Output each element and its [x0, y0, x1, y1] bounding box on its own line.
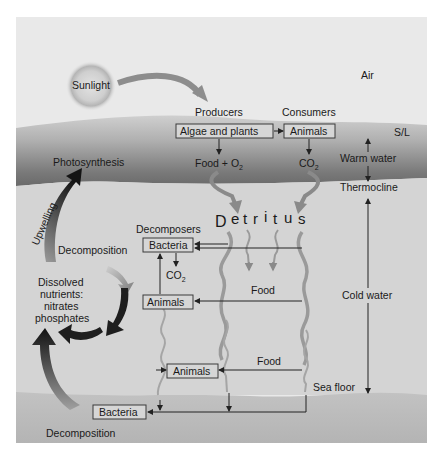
warm-water-label: Warm water — [340, 152, 397, 164]
svg-text:Bacteria: Bacteria — [99, 406, 138, 418]
svg-text:Bacteria: Bacteria — [149, 239, 188, 251]
ocean-cycle-diagram: Sunlight Air S/L Warm water Thermocline … — [0, 0, 446, 455]
svg-text:u: u — [284, 209, 296, 226]
decomposer-animals-box: Animals — [143, 295, 193, 309]
food-label-upper: Food — [251, 284, 275, 296]
svg-text:phosphates: phosphates — [35, 312, 89, 324]
svg-text:Animals: Animals — [147, 296, 184, 308]
surface-layer-label: S/L — [394, 126, 410, 138]
decomposer-bacteria-box: Bacteria — [143, 238, 193, 252]
svg-text:nitrates: nitrates — [44, 300, 78, 312]
floor-bacteria-box: Bacteria — [93, 405, 146, 419]
thermocline-label: Thermocline — [340, 181, 398, 193]
photosynthesis-label: Photosynthesis — [53, 156, 124, 168]
producers-heading: Producers — [195, 106, 243, 118]
svg-text:Animals: Animals — [290, 125, 327, 137]
svg-text:t: t — [273, 210, 281, 227]
consumer-animals-box: Animals — [284, 124, 335, 138]
sea-floor-label: Sea floor — [313, 381, 356, 393]
svg-text:D: D — [215, 213, 231, 230]
decomposition-lower-label: Decomposition — [46, 427, 116, 439]
svg-text:e: e — [231, 210, 243, 227]
consumers-heading: Consumers — [282, 106, 336, 118]
cold-water-label: Cold water — [342, 289, 393, 301]
svg-text:Animals: Animals — [173, 365, 210, 377]
svg-text:nutrients:: nutrients: — [40, 288, 83, 300]
decomposition-upper-label: Decomposition — [58, 244, 128, 256]
svg-text:r: r — [253, 210, 262, 227]
algae-plants-box: Algae and plants — [176, 124, 273, 138]
svg-text:Dissolved: Dissolved — [38, 276, 84, 288]
deep-animals-box: Animals — [167, 364, 218, 378]
air-label: Air — [361, 69, 374, 81]
svg-text:s: s — [298, 210, 310, 227]
svg-text:Algae and plants: Algae and plants — [180, 125, 258, 137]
svg-text:i: i — [264, 208, 271, 225]
decomposers-heading: Decomposers — [136, 223, 201, 235]
sunlight-label: Sunlight — [72, 79, 110, 91]
food-o2-label: Food + O2 — [195, 157, 243, 171]
food-label-lower: Food — [257, 355, 281, 367]
svg-text:t: t — [243, 210, 251, 227]
